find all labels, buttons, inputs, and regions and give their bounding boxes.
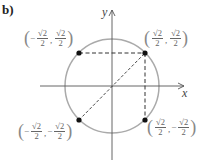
x-axis-label: x	[182, 86, 187, 101]
y-axis-label: y	[102, 5, 107, 20]
coord-label-upper-right: ( √22 , √22 )	[144, 29, 188, 47]
coord-label-upper-left: ( − √22 , √22 )	[24, 29, 73, 47]
coord-label-lower-right: ( √22 , − √22 )	[147, 118, 196, 136]
coord-label-lower-left: ( − √22 , − √22 )	[18, 122, 72, 140]
point-lower-left	[76, 117, 81, 122]
point-upper-right	[142, 50, 147, 55]
point-upper-left	[76, 50, 81, 55]
